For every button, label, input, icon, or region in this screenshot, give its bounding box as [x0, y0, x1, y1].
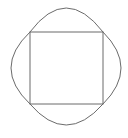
arc-left — [11, 32, 30, 104]
arc-top — [30, 8, 103, 32]
arc-right — [103, 32, 121, 104]
arc-bottom — [30, 104, 103, 125]
geometry-diagram — [0, 0, 128, 138]
inscribed-square — [30, 32, 103, 104]
